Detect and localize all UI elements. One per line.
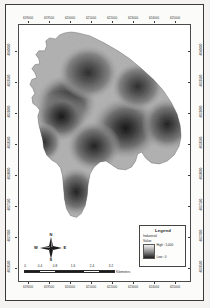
coord-right-7: 4036500 xyxy=(200,254,203,278)
map-legend[interactable]: Legend Industrial Value High : 5,000 Low… xyxy=(139,225,186,267)
coord-top-7: 625000 xyxy=(170,17,180,20)
legend-low-label: Low : 0 xyxy=(157,256,174,259)
map-page: 619000 619500 620000 621000 622000 62300… xyxy=(0,0,210,308)
scale-bar-units: Kilometers xyxy=(116,271,130,274)
west-label: W xyxy=(34,246,38,250)
south-label: S xyxy=(50,258,53,262)
coord-right-1: 4039500 xyxy=(200,68,203,92)
coord-bottom-3: 621000 xyxy=(86,286,96,289)
coord-left-6: 4037000 xyxy=(8,223,11,247)
coord-top-0: 619000 xyxy=(23,17,33,20)
coord-left-7: 4036500 xyxy=(8,254,11,278)
coord-right-5: 4037500 xyxy=(200,192,203,216)
legend-ramp-row: High : 5,000 Low : 0 xyxy=(143,244,183,259)
legend-high-label: High : 5,000 xyxy=(157,244,174,247)
coord-right-4: 4038000 xyxy=(200,161,203,185)
east-label: E xyxy=(64,246,67,250)
north-label: N xyxy=(50,233,53,237)
coord-right-0: 4040000 xyxy=(200,37,203,61)
coord-right-2: 4039000 xyxy=(200,99,203,123)
scale-value-5: 3.2 xyxy=(109,265,113,268)
coord-right-3: 4038500 xyxy=(200,130,203,154)
scale-bar: 0 0.4 0.8 1.6 2.4 3.2 Kilometers xyxy=(24,265,128,278)
coord-left-0: 4040000 xyxy=(8,37,11,61)
north-arrow: N S W E xyxy=(33,233,69,263)
coord-bottom-2: 620000 xyxy=(65,286,75,289)
coord-top-1: 619500 xyxy=(44,17,54,20)
coord-top-5: 623000 xyxy=(128,17,138,20)
coord-bottom-0: 619000 xyxy=(23,286,33,289)
scale-value-0: 0 xyxy=(24,265,26,268)
legend-ramp-labels: High : 5,000 Low : 0 xyxy=(157,244,174,259)
scale-value-4: 2.4 xyxy=(90,265,94,268)
legend-color-ramp xyxy=(143,244,155,259)
scale-value-3: 1.6 xyxy=(71,265,75,268)
coord-left-5: 4037500 xyxy=(8,192,11,216)
coord-bottom-6: 624000 xyxy=(149,286,159,289)
coord-top-4: 622000 xyxy=(107,17,117,20)
scale-bar-numbers: 0 0.4 0.8 1.6 2.4 3.2 xyxy=(24,265,128,269)
coord-top-3: 621000 xyxy=(86,17,96,20)
coord-right-6: 4037000 xyxy=(200,223,203,247)
coord-bottom-7: 625000 xyxy=(170,286,180,289)
legend-title: Legend xyxy=(143,228,183,233)
scale-bar-blocks xyxy=(24,270,115,273)
scale-value-2: 0.8 xyxy=(53,265,57,268)
coord-bottom-1: 619500 xyxy=(44,286,54,289)
coord-top-2: 620000 xyxy=(65,17,75,20)
coord-bottom-4: 622000 xyxy=(107,286,117,289)
coord-left-2: 4039000 xyxy=(8,99,11,123)
scale-value-1: 0.4 xyxy=(38,265,42,268)
coord-top-6: 624000 xyxy=(149,17,159,20)
coord-bottom-5: 623000 xyxy=(128,286,138,289)
coord-left-3: 4038500 xyxy=(8,130,11,154)
coord-left-4: 4038000 xyxy=(8,161,11,185)
coord-left-1: 4039500 xyxy=(8,68,11,92)
